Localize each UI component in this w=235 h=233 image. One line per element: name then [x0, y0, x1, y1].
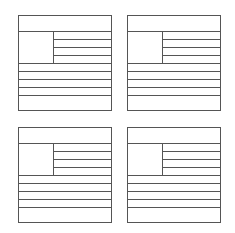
- content-divider: [19, 175, 111, 176]
- content-divider: [19, 63, 111, 64]
- side-text-line: [54, 151, 111, 152]
- side-text-line: [54, 39, 111, 40]
- body-text-line: [19, 207, 111, 208]
- side-text-line: [54, 55, 111, 56]
- body-text-line: [19, 87, 111, 88]
- side-text-line: [163, 47, 220, 48]
- body-text-line: [19, 183, 111, 184]
- side-text-line: [163, 167, 220, 168]
- body-text-line: [19, 71, 111, 72]
- body-text-line: [128, 199, 220, 200]
- content-divider: [128, 63, 220, 64]
- body-text-line: [128, 183, 220, 184]
- layout-bottom-right: [127, 127, 221, 223]
- body-text-line: [128, 87, 220, 88]
- content-divider: [128, 175, 220, 176]
- body-text-line: [128, 71, 220, 72]
- header-divider: [19, 31, 111, 32]
- side-text-line: [54, 167, 111, 168]
- body-text-line: [19, 79, 111, 80]
- layout-bottom-left: [18, 127, 112, 223]
- body-text-line: [128, 95, 220, 96]
- side-text-line: [163, 159, 220, 160]
- header-divider: [19, 143, 111, 144]
- body-text-line: [128, 207, 220, 208]
- layout-top-right: [127, 15, 221, 111]
- header-divider: [128, 143, 220, 144]
- body-text-line: [19, 95, 111, 96]
- side-text-line: [54, 159, 111, 160]
- body-text-line: [128, 79, 220, 80]
- body-text-line: [19, 191, 111, 192]
- body-text-line: [19, 199, 111, 200]
- body-text-line: [128, 191, 220, 192]
- side-text-line: [54, 47, 111, 48]
- side-text-line: [163, 55, 220, 56]
- side-text-line: [163, 151, 220, 152]
- header-divider: [128, 31, 220, 32]
- layout-top-left: [18, 15, 112, 111]
- side-text-line: [163, 39, 220, 40]
